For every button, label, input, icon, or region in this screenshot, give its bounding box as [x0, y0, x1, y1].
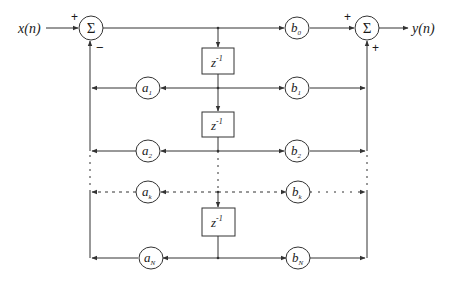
output-plus-bottom: + [372, 41, 379, 55]
coeff-b1: b1 [285, 77, 309, 99]
coeff-b2: b2 [285, 140, 309, 162]
coeff-ak: ak [136, 181, 160, 203]
coeff-bk: bk [286, 181, 310, 203]
svg-text:Σ: Σ [87, 20, 96, 36]
delay-block-1: z-1 [202, 48, 234, 74]
coeff-aN: aN [139, 247, 163, 269]
input-plus-sign: + [71, 10, 78, 24]
input-summer: Σ [79, 16, 103, 40]
coeff-a2: a2 [136, 140, 160, 162]
delay-block-2: z-1 [202, 112, 234, 137]
delay-block-N: z-1 [202, 208, 235, 236]
output-label: y(n) [410, 21, 435, 37]
output-plus-top: + [344, 10, 351, 24]
output-summer: Σ [355, 16, 379, 40]
input-minus-sign: − [96, 40, 104, 55]
input-label: x(n) [17, 21, 41, 37]
coeff-b0: b0 [285, 17, 309, 39]
filter-diagram: Σ Σ + − + + x(n) y(n) z-1 z-1 z-1 a1 a2 … [0, 0, 455, 283]
coeff-bN: bN [286, 247, 310, 269]
coeff-a1: a1 [136, 77, 160, 99]
svg-text:Σ: Σ [363, 20, 372, 36]
